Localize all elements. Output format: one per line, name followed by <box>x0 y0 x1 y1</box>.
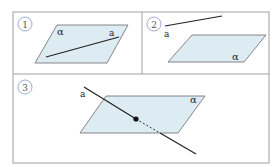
line-label: a <box>109 28 115 38</box>
plane-label: α <box>190 94 197 105</box>
plane-label: α <box>232 51 239 62</box>
panel-number: 3 <box>22 83 28 93</box>
line-a <box>165 16 222 26</box>
panel-3: 3 a α <box>18 80 205 154</box>
panel-1: 1 α a <box>18 17 128 63</box>
intersection-point <box>133 116 138 121</box>
panel-2: 2 a α <box>147 16 266 62</box>
line-label: a <box>80 89 86 99</box>
plane-alpha <box>80 96 205 133</box>
panel-number: 1 <box>22 20 28 30</box>
plane-alpha <box>168 35 266 62</box>
line-label: a <box>164 29 170 39</box>
line-a-visible-lower <box>160 133 196 154</box>
line-plane-positions-diagram: 1 α a 2 a α 3 a α <box>0 0 276 167</box>
panel-number: 2 <box>151 20 157 30</box>
plane-label: α <box>57 26 64 37</box>
